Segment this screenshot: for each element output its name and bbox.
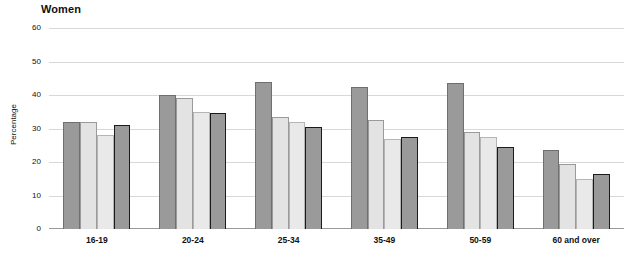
bar-cluster [351,28,418,229]
bar [272,117,289,229]
gridline [49,129,624,130]
x-tick-label: 20-24 [159,235,226,245]
x-tick-label: 50-59 [447,235,514,245]
x-tick-label: 35-49 [351,235,418,245]
page-title: Women [41,3,81,15]
bar [210,113,227,229]
bar [576,179,593,229]
bar-cluster [159,28,226,229]
bar-cluster [543,28,610,229]
bar-cluster [255,28,322,229]
y-tick-label: 30 [32,125,41,133]
x-tick-label: 16-19 [63,235,130,245]
bar [480,137,497,229]
bar-cluster [447,28,514,229]
gridline [49,228,624,229]
bar [384,139,401,229]
bar [464,132,481,229]
bar [497,147,514,229]
bar [368,120,385,229]
plot-area: 16-1920-2425-3435-4950-5960 and over [49,28,624,229]
gridline [49,95,624,96]
bar [305,127,322,229]
x-tick-label: 60 and over [543,235,610,245]
y-tick-label: 60 [32,24,41,32]
y-tick-label: 20 [32,158,41,166]
bar-cluster [63,28,130,229]
bar [401,137,418,229]
gridline [49,28,624,29]
bar [63,122,80,229]
bar [193,112,210,229]
y-axis-ticks: 0102030405060 [0,28,45,229]
bar [447,83,464,229]
bar [351,87,368,229]
bar-group: 20-24 [159,28,226,229]
y-tick-label: 40 [32,91,41,99]
bar [543,150,560,229]
bar-group: 35-49 [351,28,418,229]
bar-group: 16-19 [63,28,130,229]
bar [289,122,306,229]
bar [80,122,97,229]
bar [559,164,576,229]
y-tick-label: 0 [37,225,41,233]
y-tick-label: 50 [32,58,41,66]
x-tick-label: 25-34 [255,235,322,245]
bar-group: 50-59 [447,28,514,229]
gridline [49,62,624,63]
bar [176,98,193,229]
bar [593,174,610,229]
gridline [49,162,624,163]
bar [159,95,176,229]
bar [255,82,272,229]
bar [114,125,131,229]
bar-group: 60 and over [543,28,610,229]
bar-chart: Women Percentage 0102030405060 16-1920-2… [0,0,630,260]
bar [97,135,114,229]
bar-group: 25-34 [255,28,322,229]
gridline [49,196,624,197]
y-tick-label: 10 [32,192,41,200]
